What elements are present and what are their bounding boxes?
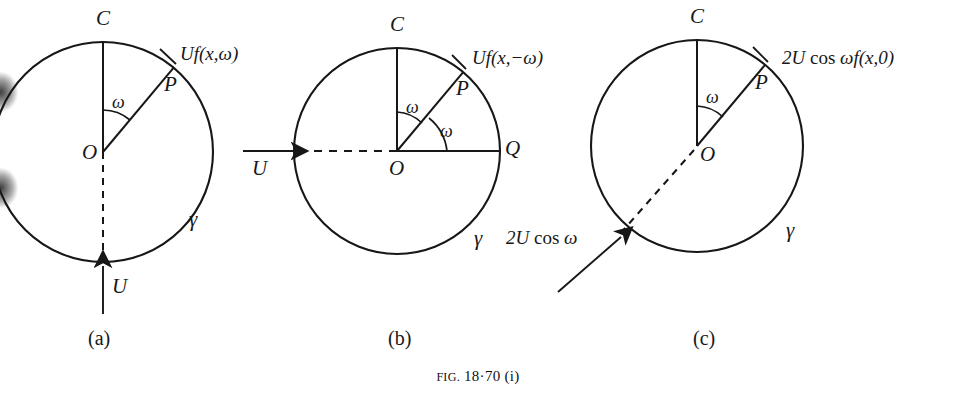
panel-b-label-gamma: γ <box>474 228 482 249</box>
panel-c-flow-arg: ω <box>564 227 577 248</box>
panel-b-label-omega-lower: ω <box>440 122 453 140</box>
panel-c-expression-args: (x,0) <box>859 47 894 68</box>
panel-c-caption: (c) <box>693 328 715 348</box>
panel-c-label-gamma: γ <box>786 220 794 241</box>
panel-c-label-P: P <box>755 72 768 93</box>
panel-b-label-omega-upper: ω <box>406 98 419 116</box>
panel-a-lineart <box>0 42 213 314</box>
figure-caption-number: 18·70 <box>464 368 501 384</box>
panel-a-expression-lead: Uf <box>180 43 199 64</box>
panel-a-circle <box>0 42 213 262</box>
panel-c-flow-label: 2U cos ω <box>506 228 577 247</box>
panel-b-expression: Uf(x,−ω) <box>472 48 543 67</box>
panel-b-caption: (b) <box>388 328 411 348</box>
panel-c-label-omega: ω <box>706 88 719 106</box>
panel-a-label-gamma: γ <box>189 209 197 230</box>
panel-a-expr-leader <box>160 49 176 64</box>
panel-a-label-omega: ω <box>112 93 125 111</box>
panel-a-label-P: P <box>164 74 177 95</box>
panel-b-label-U: U <box>252 158 267 179</box>
panel-c-expression: 2U cos ωf(x,0) <box>782 48 894 67</box>
panel-a-label-C: C <box>96 8 110 29</box>
panel-a-expression-args: (x,ω) <box>199 43 238 64</box>
panel-c-flow-lead: 2U <box>506 227 529 248</box>
panel-c-expression-arg: ωf <box>840 47 859 68</box>
panel-c-expr-leader <box>753 47 768 62</box>
panel-a-expression: Uf(x,ω) <box>180 44 238 63</box>
panel-c-expression-fn: cos <box>810 47 835 68</box>
figure-caption-suffix: (i) <box>505 368 520 384</box>
panel-c-expression-lead: 2U <box>782 47 805 68</box>
panel-b-label-O: O <box>389 158 404 179</box>
panel-c-label-C: C <box>690 6 704 27</box>
figure-caption: FIG. 18·70 (i) <box>0 368 956 385</box>
panel-c-dashed-radius <box>619 150 694 235</box>
panel-a-label-O: O <box>82 142 97 163</box>
panel-a-label-U: U <box>112 276 127 297</box>
panel-b-expr-leader <box>452 55 466 69</box>
figure-root: C O P ω γ U Uf(x,ω) (a) C O P Q ω ω γ U … <box>0 0 956 410</box>
panel-b-expression-lead: Uf <box>472 47 491 68</box>
panel-c-label-O: O <box>700 144 715 165</box>
panel-a-caption: (a) <box>88 328 110 348</box>
panel-b-label-P: P <box>456 78 469 99</box>
panel-c-flow-cos: cos <box>534 227 559 248</box>
panel-b-expression-args: (x,−ω) <box>491 47 543 68</box>
figure-caption-prefix-sc: IG <box>443 370 456 384</box>
panel-b-label-Q: Q <box>505 138 520 159</box>
panel-b-label-C: C <box>390 14 404 35</box>
panel-c-angle-arc <box>697 106 723 117</box>
figure-caption-dot: . <box>457 370 460 384</box>
